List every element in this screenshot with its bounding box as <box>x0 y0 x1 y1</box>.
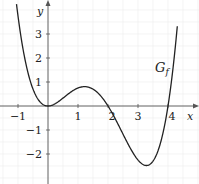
function-plot: −11234−2−1123 x y Gf <box>0 0 199 184</box>
y-tick-label: −1 <box>26 124 42 137</box>
x-tick-label: 3 <box>135 110 142 123</box>
x-tick-label: 1 <box>75 110 82 123</box>
y-tick-label: 3 <box>35 28 42 41</box>
y-tick-label: 1 <box>35 76 42 89</box>
x-axis-label: x <box>187 110 194 123</box>
y-tick-label: −2 <box>26 148 42 161</box>
x-tick-label: 4 <box>169 110 176 123</box>
y-axis-label: y <box>36 5 44 18</box>
x-tick-label: −1 <box>10 110 26 123</box>
y-tick-label: 2 <box>35 52 42 65</box>
